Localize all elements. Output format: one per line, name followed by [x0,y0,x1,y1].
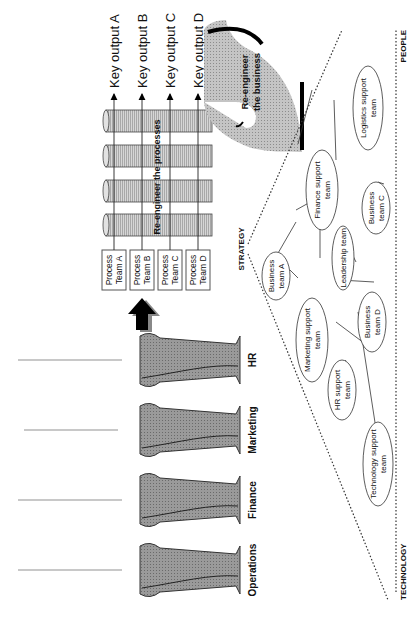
team-logistics-support: Logistics support team [353,66,383,150]
triangle-corner-technology: TECHNOLOGY [399,543,408,600]
key-output-c: Key output C [163,13,178,88]
silo-label-operations: Operations [247,543,258,596]
svg-text:Leadership team: Leadership team [339,228,348,288]
silo-hr [140,333,240,386]
silo-operations [140,543,240,596]
svg-text:team A: team A [277,263,286,289]
team-hr-support: HR support team [328,360,356,420]
svg-text:team: team [343,381,352,399]
silo-label-marketing: Marketing [247,406,258,453]
silo-label-hr: HR [247,352,258,367]
silo-finance [140,473,240,526]
svg-text:Logistics support: Logistics support [359,77,368,138]
triangle-apex-strategy: STRATEGY [237,227,246,271]
svg-text:Re-engineer: Re-engineer [239,54,250,109]
reengineer-business-shape: Re-engineer the business [198,20,304,152]
key-output-d: Key output D [191,13,206,88]
process-team-c: Process Team C [158,250,182,290]
key-output-b: Key output B [135,14,150,88]
svg-text:team: team [323,181,332,199]
triangle-corner-people: PEOPLE [399,29,408,62]
svg-text:team: team [313,331,322,349]
team-leadership: Leadership team [332,226,354,290]
svg-text:Team C: Team C [170,255,180,284]
key-output-a: Key output A [107,14,122,88]
svg-text:Process: Process [160,255,170,286]
diagram-stage: Operations Finance Marketing HR Process … [0,0,419,622]
svg-text:team: team [379,455,388,473]
silo-label-finance: Finance [247,481,258,519]
svg-text:Marketing support: Marketing support [303,307,312,372]
svg-text:team: team [369,99,378,117]
svg-text:team D: team D [373,309,382,335]
faint-lines [18,360,122,570]
team-business-a: Business team A [262,252,290,300]
team-business-d: Business team D [358,292,386,352]
team-finance-support: Finance support team [306,150,338,230]
svg-text:Team D: Team D [198,255,208,284]
svg-text:Business: Business [363,306,372,338]
process-team-d: Process Team D [186,250,210,290]
team-marketing-support: Marketing support team [296,298,328,382]
team-technology-support: Technology support team [363,422,393,506]
svg-text:Team A: Team A [114,256,124,285]
svg-text:Business: Business [367,192,376,224]
process-team-b: Process Team B [130,250,154,290]
process-team-a: Process Team A [102,250,126,290]
svg-text:Finance support: Finance support [313,161,322,219]
svg-text:Team B: Team B [142,255,152,284]
team-business-c: Business team C [362,182,390,234]
svg-text:Process: Process [104,255,114,286]
svg-text:Business: Business [267,260,276,292]
svg-text:Process: Process [188,255,198,286]
transform-arrow-icon [128,298,160,332]
svg-text:HR support: HR support [333,369,342,410]
svg-text:Technology support: Technology support [369,429,378,499]
svg-text:Process: Process [132,255,142,286]
reengineer-processes-label: Re-engineer the processes [152,119,162,234]
svg-text:the business: the business [251,53,262,111]
silo-marketing [140,403,240,456]
svg-text:team C: team C [377,195,386,221]
